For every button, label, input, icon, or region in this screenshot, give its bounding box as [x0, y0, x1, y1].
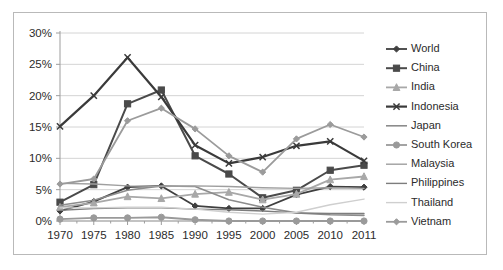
x-axis-tick-label: 1975 — [81, 229, 107, 241]
data-point-marker — [226, 218, 232, 224]
y-axis-tick-label: 5% — [35, 184, 52, 196]
legend-item-indonesia[interactable]: Indonesia — [386, 100, 460, 112]
legend: WorldChinaIndiaIndonesiaJapanSouth Korea… — [386, 42, 473, 227]
data-point-marker — [226, 205, 232, 211]
data-point-marker — [158, 94, 164, 100]
legend-item-label: Indonesia — [411, 100, 460, 112]
legend-item-china[interactable]: China — [386, 61, 441, 73]
x-axis-tick-label: 1980 — [115, 229, 141, 241]
series-line — [60, 57, 364, 163]
data-point-marker — [260, 218, 266, 224]
y-axis-tick-label: 30% — [29, 27, 52, 39]
x-axis-tick-label: 2000 — [250, 229, 276, 241]
x-axis-tick-label: 2011 — [352, 229, 377, 241]
data-point-marker — [192, 217, 198, 223]
data-point-marker — [361, 218, 367, 224]
legend-item-label: Philippines — [411, 176, 465, 188]
y-axis-tick-label: 10% — [29, 152, 52, 164]
data-point-marker — [226, 171, 232, 177]
data-point-marker — [124, 54, 130, 60]
legend-item-malaysia[interactable]: Malaysia — [386, 157, 455, 169]
data-point-marker — [192, 153, 198, 159]
chart-frame: 0%5%10%15%20%25%30%197019751980198519901… — [13, 12, 487, 255]
legend-item-label: World — [411, 42, 440, 54]
legend-item-vietnam[interactable]: Vietnam — [386, 215, 451, 227]
y-axis-tick-label: 0% — [35, 215, 52, 227]
legend-item-label: China — [411, 61, 441, 73]
x-axis-tick-label: 1970 — [47, 229, 73, 241]
legend-item-label: Malaysia — [411, 157, 455, 169]
x-axis-tick-label: 2010 — [317, 229, 343, 241]
y-axis-tick-label: 25% — [29, 58, 52, 70]
legend-item-label: Japan — [411, 119, 441, 131]
data-point-marker — [327, 183, 333, 189]
x-axis-tick-label: 1985 — [149, 229, 175, 241]
data-point-marker — [124, 101, 130, 107]
y-axis-tick-label: 20% — [29, 90, 52, 102]
chart-canvas: 0%5%10%15%20%25%30%197019751980198519901… — [14, 13, 488, 256]
data-point-marker — [327, 167, 333, 173]
series-line — [60, 108, 364, 184]
legend-item-world[interactable]: World — [386, 42, 440, 54]
legend-swatch-marker — [393, 142, 399, 148]
data-point-marker — [57, 181, 63, 187]
legend-item-south-korea[interactable]: South Korea — [386, 138, 473, 150]
data-point-marker — [361, 134, 367, 140]
legend-swatch-marker — [393, 65, 399, 71]
x-axis-tick-label: 1995 — [216, 229, 242, 241]
legend-item-thailand[interactable]: Thailand — [386, 196, 453, 208]
y-axis-tick-label: 15% — [29, 121, 52, 133]
data-point-marker — [293, 218, 299, 224]
data-point-marker — [91, 215, 97, 221]
data-point-marker — [124, 215, 130, 221]
series-line — [60, 177, 364, 208]
legend-item-label: Thailand — [411, 196, 453, 208]
x-axis-tick-label: 2005 — [284, 229, 310, 241]
legend-swatch-marker — [393, 219, 399, 225]
legend-item-india[interactable]: India — [386, 80, 436, 92]
data-point-marker — [327, 218, 333, 224]
line-chart: 0%5%10%15%20%25%30%197019751980198519901… — [14, 13, 488, 256]
series-india — [57, 173, 368, 211]
series-layer — [57, 54, 368, 224]
legend-item-japan[interactable]: Japan — [386, 119, 441, 131]
x-axis-tick-label: 1990 — [182, 229, 208, 241]
series-line — [60, 217, 364, 221]
legend-item-label: South Korea — [411, 138, 473, 150]
legend-item-philippines[interactable]: Philippines — [386, 176, 465, 188]
data-point-marker — [158, 87, 164, 93]
data-point-marker — [158, 214, 164, 220]
legend-swatch-marker — [393, 46, 399, 52]
data-point-marker — [57, 216, 63, 222]
legend-item-label: Vietnam — [411, 215, 451, 227]
series-indonesia — [57, 54, 367, 166]
legend-item-label: India — [411, 80, 436, 92]
